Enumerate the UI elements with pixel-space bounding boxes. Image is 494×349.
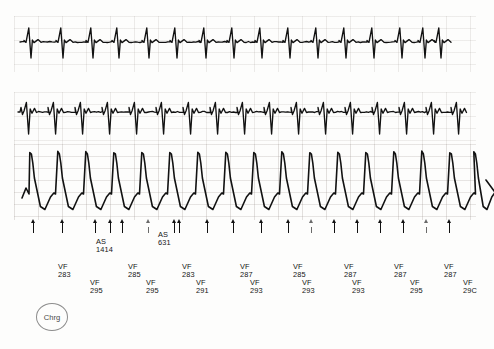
arrow-shaft [148,227,149,233]
arrow-shaft [33,222,34,233]
vf-interval-annotation: VF287 [444,263,457,278]
vf-interval-annotation: VF283 [58,263,71,278]
arrow-head-icon [424,219,428,223]
arrow-shaft [62,222,63,233]
arrow-shaft [122,222,123,233]
electrogram-strip-sheet: AS1414AS631VF283VF285VF283VF287VF285VF28… [0,0,494,349]
arrow-shaft [403,222,404,233]
marker-arrow [377,219,384,233]
marker-arrow [446,219,453,233]
arrow-shaft [110,222,111,233]
arrow-shaft [334,222,335,233]
marker-arrow [400,219,407,233]
atrial-egm-trace [18,103,467,135]
vf-interval-annotation: VF29C [463,279,477,294]
marker-arrow [204,219,211,233]
arrow-head-icon [146,219,150,223]
arrow-shaft [380,222,381,233]
vf-interval-annotation: VF287 [240,263,253,278]
vf-interval-annotation-value: 295 [146,287,159,295]
atrial-sense-annotation-value: 1414 [96,246,113,254]
vf-interval-annotation-value: 295 [90,287,103,295]
arrow-shaft [311,227,312,233]
marker-arrow [59,219,66,233]
atrial-sense-annotation: AS631 [158,231,171,246]
vf-interval-annotation: VF293 [302,279,315,294]
atrial-sense-annotation: AS1414 [96,238,113,253]
arrow-shaft [261,222,262,233]
vf-interval-annotation-value: 29C [463,287,477,295]
waveform-canvas [0,0,494,349]
surface-ecg-trace [20,28,451,58]
vf-interval-annotation-value: 295 [410,287,423,295]
marker-arrow [308,219,315,233]
marker-arrow [145,219,152,233]
vf-interval-annotation-value: 293 [352,287,365,295]
arrow-shaft [288,222,289,233]
vf-interval-annotation: VF287 [394,263,407,278]
marker-arrow [354,219,361,233]
vf-interval-annotation: VF293 [352,279,365,294]
vf-interval-annotation-value: 285 [128,271,141,279]
marker-arrow [258,219,265,233]
marker-arrow [92,219,99,233]
marker-arrow [331,219,338,233]
marker-arrow [423,219,430,233]
vf-interval-annotation-value: 291 [196,287,209,295]
vf-interval-annotation: VF285 [293,263,306,278]
charge-marker-label: Chrg [44,313,60,322]
marker-arrow [119,219,126,233]
vf-interval-annotation-value: 293 [250,287,263,295]
marker-arrow [285,219,292,233]
vf-interval-annotation: VF295 [410,279,423,294]
arrow-shaft [449,222,450,233]
arrow-shaft [426,227,427,233]
vf-interval-annotation-value: 283 [58,271,71,279]
marker-arrow [30,219,37,233]
vf-interval-annotation: VF287 [344,263,357,278]
vf-interval-annotation-value: 283 [182,271,195,279]
marker-arrow [107,219,114,233]
vf-interval-annotation-value: 293 [302,287,315,295]
arrow-head-icon [309,219,313,223]
vf-interval-annotation-value: 287 [394,271,407,279]
vf-interval-annotation: VF295 [146,279,159,294]
vf-interval-annotation-value: 287 [444,271,457,279]
vf-interval-annotation: VF285 [128,263,141,278]
marker-channel [0,219,494,235]
vf-interval-annotation: VF295 [90,279,103,294]
arrow-shaft [95,222,96,233]
ventricular-egm-trace [22,151,494,209]
arrow-shaft [207,222,208,233]
vf-interval-annotation: VF283 [182,263,195,278]
vf-interval-annotation: VF293 [250,279,263,294]
arrow-shaft [233,222,234,233]
arrow-shaft [357,222,358,233]
marker-arrow [176,219,183,233]
marker-arrow [230,219,237,233]
arrow-shaft [179,222,180,233]
atrial-sense-annotation-value: 631 [158,239,171,247]
charge-marker[interactable]: Chrg [36,303,68,331]
vf-interval-annotation: VF291 [196,279,209,294]
